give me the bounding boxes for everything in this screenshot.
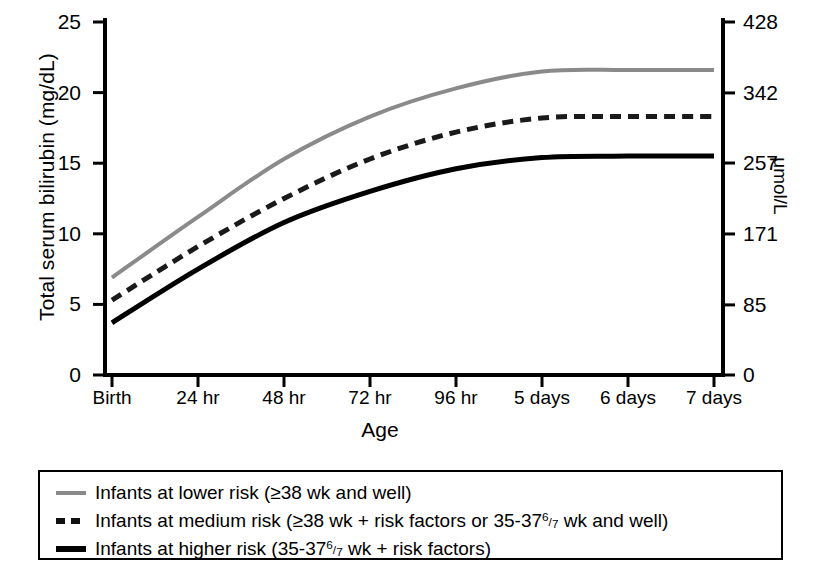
series-line-2: [112, 156, 714, 323]
legend-label-medium-risk: Infants at medium risk (≥38 wk + risk fa…: [95, 510, 668, 532]
y-axis-right-tick-label-5: 428: [743, 11, 803, 32]
x-axis-tick-label-7: 7 days: [666, 388, 762, 407]
legend: Infants at lower risk (≥38 wk and well) …: [38, 470, 783, 560]
legend-label-medium-risk-prefix: Infants at medium risk (≥38 wk + risk fa…: [95, 510, 542, 531]
y-axis-right-tick-label-3: 257: [743, 152, 803, 173]
x-axis-tick-label-5: 5 days: [494, 388, 590, 407]
series-line-0: [112, 70, 714, 278]
legend-fraction-higher-risk: 6/7: [326, 539, 342, 558]
y-axis-left-tick-label-2: 10: [25, 223, 81, 244]
fraction-numerator: 6: [542, 510, 549, 523]
legend-label-medium-risk-suffix: wk and well): [558, 510, 668, 531]
x-axis-tick-label-3: 72 hr: [322, 388, 418, 407]
y-axis-left-tick-label-4: 20: [25, 82, 81, 103]
legend-item-medium-risk: Infants at medium risk (≥38 wk + risk fa…: [56, 508, 781, 534]
y-axis-left-tick-label-3: 15: [25, 152, 81, 173]
legend-label-higher-risk: Infants at higher risk (35-376/7 wk + ri…: [95, 538, 491, 560]
y-axis-left-tick-label-0: 0: [25, 364, 81, 385]
y-axis-left-tick-label-5: 25: [25, 11, 81, 32]
legend-label-higher-risk-prefix: Infants at higher risk (35-37: [95, 538, 326, 559]
series-line-1: [112, 116, 714, 300]
y-axis-right-tick-label-0: 0: [743, 364, 803, 385]
x-axis-tick-label-4: 96 hr: [408, 388, 504, 407]
lower-risk-line-swatch-icon: [56, 486, 86, 500]
x-axis-tick-label-6: 6 days: [580, 388, 676, 407]
x-axis-tick-label-1: 24 hr: [150, 388, 246, 407]
y-axis-right-tick-label-2: 171: [743, 223, 803, 244]
legend-item-lower-risk: Infants at lower risk (≥38 wk and well): [56, 480, 781, 506]
legend-label-lower-risk: Infants at lower risk (≥38 wk and well): [95, 482, 412, 504]
fraction-numerator: 6: [326, 538, 333, 551]
y-axis-right-tick-label-1: 85: [743, 294, 803, 315]
y-axis-right-tick-label-4: 342: [743, 82, 803, 103]
y-axis-left-tick-label-1: 5: [25, 293, 81, 314]
legend-label-higher-risk-suffix: wk + risk factors): [343, 538, 491, 559]
x-axis-tick-label-2: 48 hr: [236, 388, 332, 407]
higher-risk-line-swatch-icon: [56, 542, 86, 556]
medium-risk-line-swatch-icon: [56, 514, 86, 528]
legend-item-higher-risk: Infants at higher risk (35-376/7 wk + ri…: [56, 536, 781, 562]
phototherapy-bilirubin-chart: Total serum bilirubin (mg/dL) μmol/L Age…: [0, 0, 822, 578]
legend-fraction-medium-risk: 6/7: [542, 511, 558, 530]
x-axis-tick-label-0: Birth: [64, 388, 160, 407]
